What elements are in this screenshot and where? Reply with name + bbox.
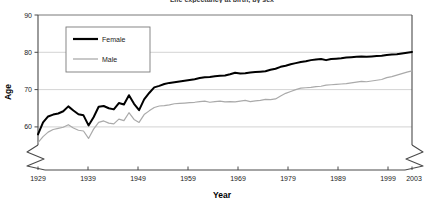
x-tick-label-1959: 1959 bbox=[180, 175, 196, 182]
y-tick-label-80: 80 bbox=[24, 49, 32, 56]
x-tick-label-1939: 1939 bbox=[80, 175, 96, 182]
series-line-male bbox=[38, 71, 412, 143]
x-tick-label-1989: 1989 bbox=[330, 175, 346, 182]
y-tick-labels: 90 80 70 60 bbox=[24, 12, 32, 131]
chart-container: Life expectancy at birth, by sex bbox=[0, 0, 444, 203]
x-tick-labels: 1929 1939 1949 1959 1969 1979 1989 1999 … bbox=[30, 175, 422, 182]
legend-label-female: Female bbox=[102, 36, 125, 43]
legend-box bbox=[66, 27, 150, 72]
x-tick-label-1969: 1969 bbox=[230, 175, 246, 182]
chart-legend: Female Male bbox=[66, 27, 150, 72]
line-chart-plot: 90 80 70 60 1929 1939 1949 1959 1969 197… bbox=[0, 0, 444, 203]
x-tick-label-1999: 1999 bbox=[380, 175, 396, 182]
y-tick-label-70: 70 bbox=[24, 86, 32, 93]
legend-label-male: Male bbox=[102, 56, 117, 63]
axis-break-left bbox=[27, 145, 45, 170]
y-axis-spine bbox=[35, 15, 39, 145]
x-tick-label-2003: 2003 bbox=[406, 175, 422, 182]
x-tick-label-1949: 1949 bbox=[130, 175, 146, 182]
y-tick-label-60: 60 bbox=[24, 123, 32, 130]
y-tick-label-90: 90 bbox=[24, 12, 32, 19]
y-axis-title: Age bbox=[3, 84, 13, 100]
x-axis-title: Year bbox=[213, 190, 232, 200]
x-tick-label-1929: 1929 bbox=[30, 175, 46, 182]
axis-break-right bbox=[405, 145, 423, 170]
x-tick-label-1979: 1979 bbox=[280, 175, 296, 182]
